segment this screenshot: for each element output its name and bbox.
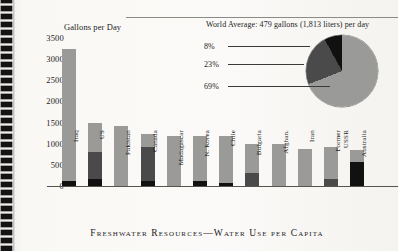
binding-ring	[1, 0, 12, 3]
binding-ring	[1, 166, 12, 171]
pie-leader-line	[228, 46, 310, 47]
pie-leader-line	[228, 86, 330, 87]
x-axis-label: Afghan.	[283, 130, 291, 190]
binding-ring	[1, 246, 12, 251]
x-axis-label: US	[99, 130, 107, 190]
binding-ring	[1, 214, 12, 219]
binding-ring	[1, 22, 12, 27]
binding-gutter	[13, 0, 15, 251]
y-axis-tick	[47, 186, 51, 187]
binding-ring	[1, 222, 12, 227]
binding-ring	[1, 110, 12, 115]
x-axis-label: Iraq	[73, 130, 81, 190]
binding-ring	[1, 142, 12, 147]
binding-ring	[1, 182, 12, 187]
binding-ring	[1, 134, 12, 139]
binding-ring	[1, 62, 12, 67]
binding-ring	[1, 174, 12, 179]
binding-ring	[1, 150, 12, 155]
binding-ring	[1, 126, 12, 131]
binding-ring	[1, 118, 12, 123]
binding-ring	[1, 102, 12, 107]
pie-inset-title: World Average: 479 gallons (1,813 liters…	[206, 20, 369, 29]
pie-slice-label: 23%	[204, 60, 219, 69]
x-axis-label: Chile	[230, 130, 238, 190]
binding-ring	[1, 70, 12, 75]
pie-chart	[306, 35, 378, 107]
x-axis-label: Madagascar	[178, 130, 186, 190]
x-axis-label: N. Korea	[204, 130, 212, 190]
binding-ring	[1, 14, 12, 19]
binding-ring	[1, 30, 12, 35]
pie-leader-line	[228, 64, 304, 65]
binding-ring	[1, 54, 12, 59]
pie-slice-label: 8%	[204, 42, 215, 51]
binding-ring	[1, 190, 12, 195]
x-axis-label: Bulgaria	[256, 130, 264, 190]
x-axis-label: Former USSR	[335, 130, 350, 190]
binding-ring	[1, 94, 12, 99]
binding-ring	[1, 78, 12, 83]
binding-ring	[1, 206, 12, 211]
pie-slice-label: 69%	[204, 82, 219, 91]
x-axis-label: Pakistan	[125, 130, 133, 190]
binding-ring	[1, 38, 12, 43]
binding-ring	[1, 86, 12, 91]
pie-inset: World Average: 479 gallons (1,813 liters…	[196, 20, 398, 112]
binding-ring	[1, 238, 12, 243]
x-axis-label: Iran	[309, 130, 317, 190]
x-axis-label: Canada	[152, 130, 160, 190]
figure-caption: Freshwater Resources—Water Use per Capit…	[16, 228, 398, 238]
binding-ring	[1, 198, 12, 203]
spiral-binding	[0, 0, 14, 251]
chart-page-content: Gallons per Day 050010001500200025003000…	[16, 0, 398, 251]
x-axis-label: Australia	[361, 130, 369, 190]
binding-ring	[1, 46, 12, 51]
binding-ring	[1, 6, 12, 11]
binding-ring	[1, 230, 12, 235]
binding-ring	[1, 158, 12, 163]
